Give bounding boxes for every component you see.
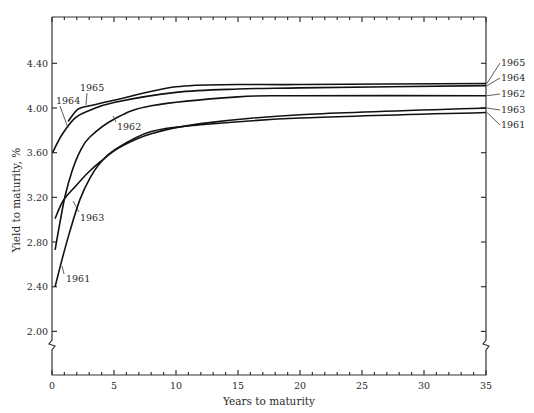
- y-tick-label: 4.00: [27, 103, 48, 114]
- right-leader-line: [487, 108, 500, 110]
- x-tick-label: 20: [294, 380, 306, 391]
- leader-line: [60, 106, 68, 128]
- y-tick-label: 2.80: [27, 237, 48, 248]
- y-axis-title: Yield to maturity, %: [10, 148, 22, 254]
- chart-canvas: 051015202530352.002.402.803.203.604.004.…: [0, 0, 534, 413]
- y-tick-label: 4.40: [27, 58, 48, 69]
- x-tick-label: 5: [111, 380, 117, 391]
- right-label-1965: 1965: [501, 57, 525, 68]
- right-leader-line: [487, 63, 500, 83]
- x-tick-label: 10: [170, 380, 182, 391]
- curves: [53, 83, 486, 286]
- right-leader-line: [487, 78, 500, 86]
- yield-curve-chart: 051015202530352.002.402.803.203.604.004.…: [0, 0, 534, 413]
- leader-line: [62, 266, 64, 274]
- x-tick-label: 30: [418, 380, 430, 391]
- x-tick-label: 35: [480, 380, 492, 391]
- curve-label-1962: 1962: [117, 121, 141, 132]
- right-label-1964: 1964: [501, 72, 525, 83]
- x-tick-label: 25: [356, 380, 368, 391]
- y-tick-label: 3.60: [27, 147, 48, 158]
- curve-label-1961: 1961: [66, 273, 90, 284]
- x-tick-label: 15: [232, 380, 244, 391]
- curve-label-1964: 1964: [56, 95, 80, 106]
- curve-label-1963: 1963: [80, 212, 104, 223]
- curve-1961: [55, 112, 486, 286]
- leader-line: [86, 93, 87, 105]
- right-leader-line: [487, 94, 500, 96]
- x-tick-label: 0: [49, 380, 55, 391]
- y-tick-label: 3.20: [27, 192, 48, 203]
- curve-labels: 1965196419621963196119651964196219631961: [56, 57, 525, 284]
- x-axis-title: Years to maturity: [222, 395, 315, 407]
- right-label-1961: 1961: [501, 119, 525, 130]
- axes: 051015202530352.002.402.803.203.604.004.…: [27, 17, 492, 391]
- right-label-1963: 1963: [501, 104, 525, 115]
- curve-label-1965: 1965: [80, 82, 104, 93]
- right-label-1962: 1962: [501, 88, 525, 99]
- right-leader-line: [487, 112, 500, 125]
- y-tick-label: 2.00: [27, 326, 48, 337]
- axis-frame: [49, 17, 489, 375]
- y-tick-label: 2.40: [27, 281, 48, 292]
